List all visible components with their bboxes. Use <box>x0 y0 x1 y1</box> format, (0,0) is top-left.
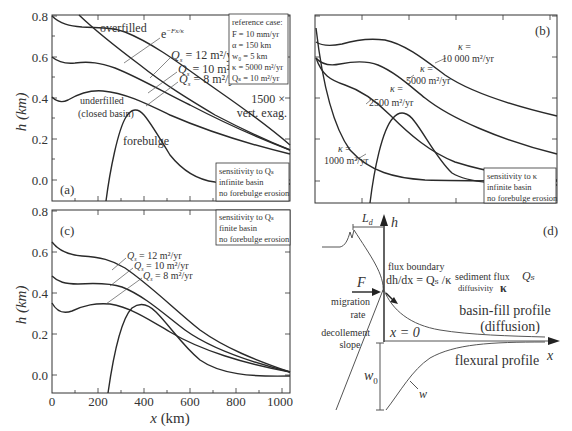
note-a-2: no forebulge erosion <box>219 188 290 198</box>
ref-line-2: α = 150 km <box>232 40 272 50</box>
y-axis-title-c: h (km) <box>13 286 30 325</box>
label-decol-1: decollement <box>321 327 370 338</box>
ytick-c-0.2: 0.2 <box>32 327 48 342</box>
ytick-a-0.6: 0.6 <box>32 50 49 65</box>
label-b-k2500-b: 2500 m²/yr <box>369 97 414 108</box>
note-b-2: no forebulge erosion <box>487 193 558 203</box>
label-sed-Q: Qₛ <box>522 269 535 283</box>
x-axis-title-c: x (km) <box>149 410 190 427</box>
note-a-1: infinite basin <box>219 177 264 187</box>
panel-b: κ = 10 000 m²/yr κ = 5000 m²/yr κ = 2500… <box>315 15 558 203</box>
panel-c: h (km) 0.8 0.6 0.4 0.2 0.0 0 200 400 600… <box>13 204 293 427</box>
label-overfilled: overfilled <box>100 21 147 35</box>
leader-a-efx <box>124 38 160 63</box>
note-c-2: no forebulge erosion <box>219 234 290 244</box>
y-axis-title-a: h (km) <box>13 93 30 132</box>
x-axis-arrow-icon <box>548 337 560 345</box>
xtick-c-600: 600 <box>180 394 200 409</box>
leader-c-qs8 <box>106 278 142 304</box>
leader-c-qs10 <box>110 268 133 286</box>
label-flux-1: flux boundary <box>388 261 444 272</box>
label-b-k10000-a: κ = <box>458 41 471 52</box>
label-b-k10000-b: 10 000 m²/yr <box>442 53 495 64</box>
xtick-c-200: 200 <box>88 394 108 409</box>
panel-d: h Ld (d) x w0 w F migration rate decolle… <box>321 211 560 410</box>
wedge-topography <box>322 230 383 292</box>
label-closed-basin: (closed basin) <box>78 108 134 120</box>
label-diff-k: κ <box>500 281 507 295</box>
h-axis-arrow-icon <box>380 214 388 226</box>
w-leader <box>410 381 418 389</box>
label-w: w <box>419 387 427 401</box>
decollement-line <box>336 290 383 410</box>
ref-line-0: reference case: <box>232 17 283 27</box>
label-ld: Ld <box>361 211 374 227</box>
panel-label-c: (c) <box>60 223 74 238</box>
note-b-0: sensitivity to κ <box>487 171 538 181</box>
label-basin-fill: basin-fill profile <box>459 303 550 318</box>
label-flexural: flexural profile <box>455 353 539 368</box>
label-F: F <box>356 275 366 290</box>
label-diffusivity: diffusivity <box>458 283 494 293</box>
curve-c-qs10 <box>52 276 290 372</box>
label-efx: e−Fx/κ <box>161 27 184 41</box>
label-exag-2: vert. exag. <box>237 106 287 120</box>
ref-line-4: κ = 5000 m²/yr <box>232 62 283 72</box>
label-diffusion: (diffusion) <box>480 319 540 335</box>
label-b-k1000-b: 1000 m²/yr <box>324 155 369 166</box>
label-w0: w0 <box>364 368 378 386</box>
xtick-c-1000: 1000 <box>267 394 293 409</box>
curve-c-forebulge <box>108 305 290 393</box>
note-c-1: finite basin <box>219 223 258 233</box>
label-forebulge: forebulge <box>123 134 169 148</box>
ytick-c-0.0: 0.0 <box>32 368 48 383</box>
ytick-c-0.6: 0.6 <box>32 245 49 260</box>
ref-line-1: F = 10 mm/yr <box>232 29 279 39</box>
ytick-c-0.4: 0.4 <box>32 286 49 301</box>
leader-c-qs12 <box>112 258 126 270</box>
label-x0: x = 0 <box>389 325 420 340</box>
note-b-1: infinite basin <box>487 182 532 192</box>
note-c-0: sensitivity to Qₛ <box>219 212 274 222</box>
ytick-a-0.2: 0.2 <box>32 132 48 147</box>
ytick-c-0.8: 0.8 <box>32 204 48 219</box>
label-b-k2500-a: κ = <box>390 83 403 94</box>
label-migration-2: rate <box>351 309 367 320</box>
panel-label-a: (a) <box>60 182 74 197</box>
label-underfilled: underfilled <box>80 95 124 106</box>
ytick-a-0.0: 0.0 <box>32 173 48 188</box>
ytick-a-0.4: 0.4 <box>32 91 49 106</box>
panel-label-b: (b) <box>535 23 550 38</box>
panel-a: h (km) 0.8 0.6 0.4 0.2 0.0 overfilled e− <box>13 9 290 201</box>
leader-a-qs12 <box>150 58 170 78</box>
label-b-k5000-a: κ = <box>420 63 433 74</box>
panel-label-d: (d) <box>543 223 558 238</box>
label-h: h <box>391 215 398 230</box>
label-exag-1: 1500 × <box>251 92 285 106</box>
f-arrowhead-icon <box>372 288 381 296</box>
xtick-c-0: 0 <box>49 394 56 409</box>
label-b-k1000-a: κ = <box>338 143 351 154</box>
xtick-c-800: 800 <box>226 394 246 409</box>
label-migration-1: migration <box>331 296 370 307</box>
ytick-a-0.8: 0.8 <box>32 9 48 24</box>
ref-line-3: w₀ = 5 km <box>232 51 268 61</box>
label-c-qs8: Qs = 8 m²/yr <box>143 270 193 282</box>
label-b-k5000-b: 5000 m²/yr <box>406 75 451 86</box>
label-x: x <box>546 348 554 363</box>
xtick-c-400: 400 <box>134 394 154 409</box>
note-a-0: sensitivity to Qₛ <box>219 166 274 176</box>
figure-canvas: h (km) 0.8 0.6 0.4 0.2 0.0 overfilled e− <box>0 0 572 431</box>
label-decol-2: slope <box>339 339 361 350</box>
label-flux-2: dh/dx = Qₛ /κ <box>386 273 451 287</box>
ref-line-5: Qₛ = 10 m²/yr <box>232 73 279 83</box>
